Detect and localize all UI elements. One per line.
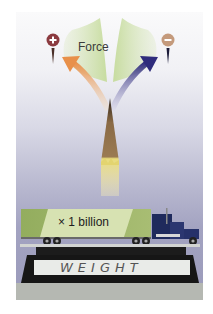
semi-truck-icon	[21, 208, 199, 245]
force-label: Force	[78, 40, 109, 54]
minus-charge-icon	[162, 34, 175, 65]
plus-charge-icon	[47, 34, 60, 65]
scale-weight-label: WEIGHT	[60, 260, 143, 275]
pencil-tip-icon	[101, 98, 119, 196]
truck-multiplier-label: × 1 billion	[58, 215, 109, 229]
